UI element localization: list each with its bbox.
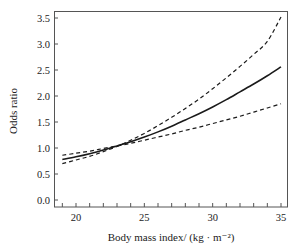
y-axis-label: Odds ratio <box>7 87 19 134</box>
x-tick-label: 25 <box>139 212 150 223</box>
y-tick-label: 3.0 <box>37 39 50 50</box>
y-tick-label: 0.5 <box>37 169 50 180</box>
x-axis: 20253035 <box>62 203 286 223</box>
upper-ci-line <box>62 17 281 164</box>
odds-ratio-chart: 0.00.51.01.52.02.53.03.5 20253035 Odds r… <box>0 0 298 249</box>
y-tick-label: 1.5 <box>37 117 50 128</box>
y-tick-label: 2.5 <box>37 65 50 76</box>
x-axis-label: Body mass index/ (kg · m⁻²) <box>108 231 235 244</box>
y-tick-label: 3.5 <box>37 13 50 24</box>
y-tick-label: 0.0 <box>37 195 50 206</box>
x-tick-label: 30 <box>207 212 218 223</box>
plot-frame <box>55 12 288 208</box>
series-lines <box>62 17 281 164</box>
lower-ci-line <box>62 104 281 155</box>
x-tick-label: 35 <box>276 212 287 223</box>
odds-ratio-line <box>62 67 281 160</box>
y-tick-label: 2.0 <box>37 91 50 102</box>
x-tick-label: 20 <box>71 212 82 223</box>
y-tick-label: 1.0 <box>37 143 50 154</box>
